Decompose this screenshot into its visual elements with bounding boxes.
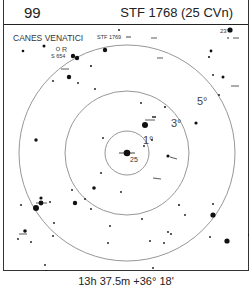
stars <box>17 27 249 271</box>
circle-label-3: 3° <box>171 117 182 129</box>
stf1769-label: STF 1769 <box>97 34 121 40</box>
variable-star-label: R <box>62 46 67 53</box>
star-23-label: 23 <box>220 28 227 34</box>
star-chart: 1° 3° 5° CANES VENATICI R STF 1769 S 654… <box>3 25 249 271</box>
variable-star-icon <box>56 47 60 51</box>
chart-coordinates: 13h 37.5m +36° 18' <box>0 275 252 287</box>
s654-label: S 654 <box>51 53 65 59</box>
double-star-markers <box>19 38 239 234</box>
constellation-label: CANES VENATICI <box>13 33 83 43</box>
center-star-label: 25 <box>130 156 138 163</box>
circle-label-5: 5° <box>197 95 208 107</box>
